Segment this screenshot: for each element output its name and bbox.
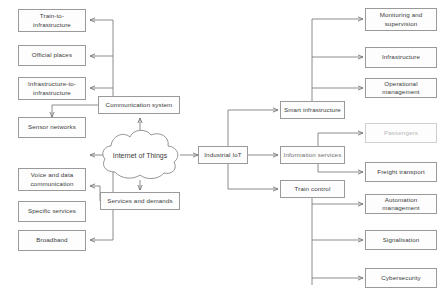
node-information-services[interactable]: Information services <box>280 146 345 164</box>
cloud-internet-of-things[interactable]: Internet of Things <box>98 128 182 182</box>
node-voice-and-data-communication[interactable]: Voice and data communication <box>18 168 86 191</box>
cloud-label: Internet of Things <box>113 152 167 159</box>
node-cybersecurity[interactable]: Cybersecurity <box>365 268 437 288</box>
node-broadband[interactable]: Broadband <box>18 230 86 251</box>
node-specific-services[interactable]: Specific services <box>18 201 86 222</box>
node-automation-management[interactable]: Automation management <box>365 194 437 214</box>
node-communication-system[interactable]: Communication system <box>98 96 180 114</box>
diagram-canvas: Train-to-infrastructure Official places … <box>0 0 447 296</box>
node-industrial-iot[interactable]: Industrial IoT <box>198 146 248 164</box>
node-infrastructure-to-infrastructure[interactable]: Infrastructure-to-infrastructure <box>18 77 86 100</box>
node-sensor-networks[interactable]: Sensor networks <box>18 117 86 138</box>
node-passengers[interactable]: Passengers <box>365 123 437 143</box>
node-signalisation[interactable]: Signalisation <box>365 230 437 250</box>
node-smart-infrastructure[interactable]: Smart infrastructure <box>280 101 345 119</box>
node-operational-management[interactable]: Operational management <box>365 78 437 98</box>
node-services-and-demands[interactable]: Services and demands <box>100 192 180 210</box>
node-monitoring-and-supervision[interactable]: Monitoring and supervision <box>365 8 437 31</box>
node-infrastructure[interactable]: Infrastructure <box>365 47 437 68</box>
node-official-places[interactable]: Official places <box>18 45 86 66</box>
node-train-to-infrastructure[interactable]: Train-to-infrastructure <box>18 9 86 32</box>
node-freight-transport[interactable]: Freight transport <box>365 162 437 182</box>
node-train-control[interactable]: Train control <box>280 180 345 198</box>
